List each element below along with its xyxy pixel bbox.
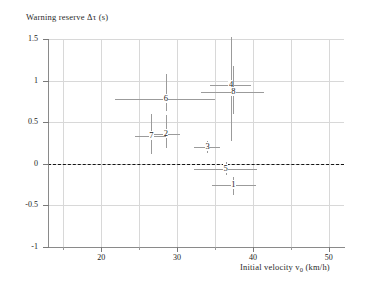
- gridline-horizontal: [48, 205, 344, 206]
- x-axis-title-text: Initial velocity v: [240, 262, 300, 272]
- y-axis-tick: [43, 205, 49, 206]
- plot-area: 12345678: [48, 39, 344, 247]
- gridline-horizontal: [48, 39, 344, 40]
- gridline-horizontal: [48, 122, 344, 123]
- data-point-label: 1: [231, 180, 236, 189]
- y-axis-line: [48, 39, 49, 248]
- x-axis-tick-minor: [291, 247, 292, 250]
- gridline-vertical: [63, 39, 64, 247]
- gridline-vertical: [101, 39, 102, 247]
- x-axis-tick-label: 50: [317, 253, 341, 262]
- x-axis-title-units: (km/h): [303, 262, 330, 272]
- y-axis-tick-label: -0.5: [25, 200, 38, 209]
- x-axis-tick-label: 40: [241, 253, 265, 262]
- gridline-vertical: [329, 39, 330, 247]
- y-axis-tick: [43, 247, 49, 248]
- x-axis-tick: [253, 247, 254, 252]
- x-axis-tick: [329, 247, 330, 252]
- gridline-vertical: [177, 39, 178, 247]
- gridline-vertical: [291, 39, 292, 247]
- y-axis-tick-label: 0: [34, 159, 38, 168]
- y-axis-tick-label: 0.5: [28, 117, 38, 126]
- y-axis-tick: [43, 122, 49, 123]
- data-point-label: 6: [163, 94, 168, 103]
- x-axis-line: [48, 247, 345, 248]
- x-axis-tick: [101, 247, 102, 252]
- x-axis-tick-minor: [63, 247, 64, 250]
- x-axis-tick-label: 20: [89, 253, 113, 262]
- x-axis-tick: [177, 247, 178, 252]
- x-axis-tick-label: 30: [165, 253, 189, 262]
- chart-container: Warning reserve Δτ (s) Initial velocity …: [0, 0, 368, 286]
- y-axis-tick: [43, 39, 49, 40]
- gridline-horizontal: [48, 81, 344, 82]
- data-point-label: 7: [149, 131, 154, 140]
- y-axis-tick-label: 1.5: [28, 34, 38, 43]
- data-point-label: 8: [231, 87, 236, 96]
- y-axis-tick-label: 1: [34, 76, 38, 85]
- x-axis-tick-minor: [215, 247, 216, 250]
- y-axis-tick: [43, 164, 49, 165]
- data-point-label: 5: [223, 164, 228, 173]
- y-axis-tick-label: -1: [31, 242, 38, 251]
- zero-reference-line: [48, 164, 344, 165]
- x-axis-title: Initial velocity v0 (km/h): [240, 262, 330, 273]
- gridline-vertical: [215, 39, 216, 247]
- y-axis-tick: [43, 81, 49, 82]
- y-axis-title: Warning reserve Δτ (s): [26, 12, 108, 22]
- data-point-label: 3: [205, 142, 210, 151]
- gridline-vertical: [139, 39, 140, 247]
- gridline-vertical: [253, 39, 254, 247]
- x-axis-tick-minor: [139, 247, 140, 250]
